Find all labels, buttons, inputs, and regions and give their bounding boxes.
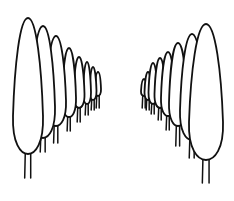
right-tree-row [141,24,223,183]
tree-trunk [176,124,177,146]
cypress-trees-illustration [0,0,234,201]
tree-trunk [202,158,203,183]
tree-trunk [25,152,26,178]
left-tree-row [13,18,101,178]
